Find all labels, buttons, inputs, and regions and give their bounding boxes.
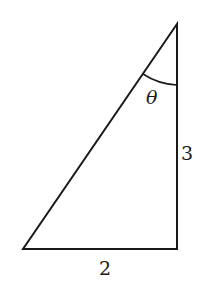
vertical-side-label: 3	[181, 142, 193, 164]
horizontal-side-label: 2	[99, 257, 111, 279]
triangle-diagram: θ 3 2	[0, 0, 201, 297]
right-triangle	[23, 24, 177, 249]
angle-arc	[143, 74, 177, 85]
angle-label: θ	[146, 86, 158, 108]
